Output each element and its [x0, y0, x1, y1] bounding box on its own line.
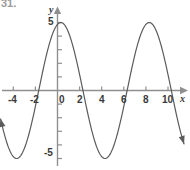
figure-container: 31. — [0, 0, 190, 170]
x-tick-label--2: -2 — [30, 95, 39, 105]
x-axis-label: x — [180, 94, 185, 104]
sinusoid-graph — [0, 0, 190, 170]
x-tick-label-10: 10 — [162, 95, 173, 105]
y-axis-label: y — [49, 5, 53, 15]
x-tick-label-6: 6 — [121, 95, 127, 105]
curve-end-arrowhead — [179, 135, 185, 144]
x-tick-label-8: 8 — [143, 95, 149, 105]
y-axis-arrowhead — [54, 7, 61, 15]
y-tick-label--5: -5 — [44, 148, 53, 158]
x-tick-label-0: 0 — [59, 95, 65, 105]
y-tick-label-5: 5 — [48, 17, 54, 27]
x-tick-label--4: -4 — [8, 95, 17, 105]
curve-start-arrowhead — [0, 119, 5, 128]
x-tick-label-2: 2 — [77, 95, 83, 105]
x-tick-label-4: 4 — [99, 95, 105, 105]
